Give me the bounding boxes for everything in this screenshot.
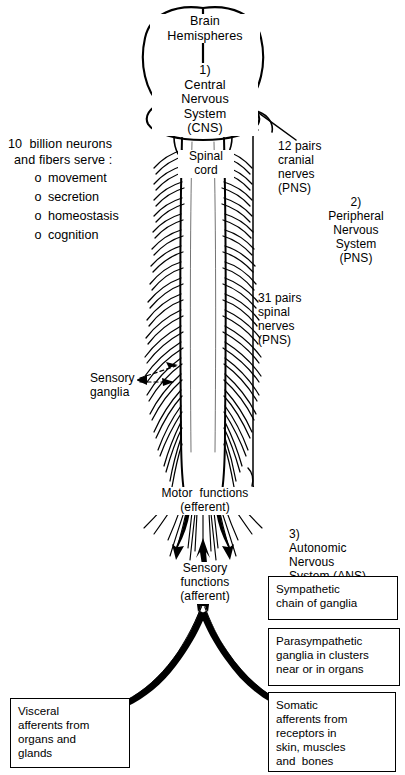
somatic-afferents-box: Somatic afferents from receptors in skin… [268, 692, 396, 772]
list-item-label: movement [48, 169, 107, 188]
left-panel-heading-1: 10 billion neurons [8, 137, 112, 152]
spinal-cord-label: Spinal cord [178, 150, 234, 178]
list-item-label: cognition [48, 226, 98, 245]
left-panel-heading-2: and fibers serve : [14, 153, 112, 168]
bullet-glyph: o [34, 188, 42, 207]
cns-label: 1) Central Nervous System (CNS) [152, 63, 258, 136]
list-item-label: secretion [48, 188, 99, 207]
cranial-nerves-label: 12 pairs cranial nerves (PNS) [278, 140, 322, 196]
bullet-glyph: o [34, 169, 42, 188]
sensory-ganglia-label: Sensory ganglia [88, 372, 137, 400]
parasympathetic-box: Parasympathetic ganglia in clusters near… [268, 628, 400, 686]
visceral-afferents-box: Visceral afferents from organs and gland… [10, 698, 130, 768]
list-item-label: homeostasis [48, 207, 119, 226]
peripheral-nervous-system-label: 2) Peripheral Nervous System (PNS) [312, 196, 400, 266]
diagram-canvas: Brain Hemispheres 1) Central Nervous Sys… [0, 0, 405, 775]
list-item: o cognition [34, 226, 119, 245]
list-item: o movement [34, 169, 119, 188]
list-item: o secretion [34, 188, 119, 207]
motor-functions-label: Motor functions (efferent) [136, 487, 274, 515]
spinal-nerves-label: 31 pairs spinal nerves (PNS) [258, 292, 302, 348]
sensory-functions-label: Sensory functions (afferent) [150, 562, 260, 604]
sympathetic-box: Sympathetic chain of ganglia [268, 576, 398, 620]
list-item: o homeostasis [34, 207, 119, 226]
bullet-glyph: o [34, 226, 42, 245]
neuron-function-list: o movement o secretion o homeostasis o c… [34, 169, 119, 245]
brain-hemispheres-label: Brain Hemispheres [150, 14, 260, 43]
bullet-glyph: o [34, 207, 42, 226]
